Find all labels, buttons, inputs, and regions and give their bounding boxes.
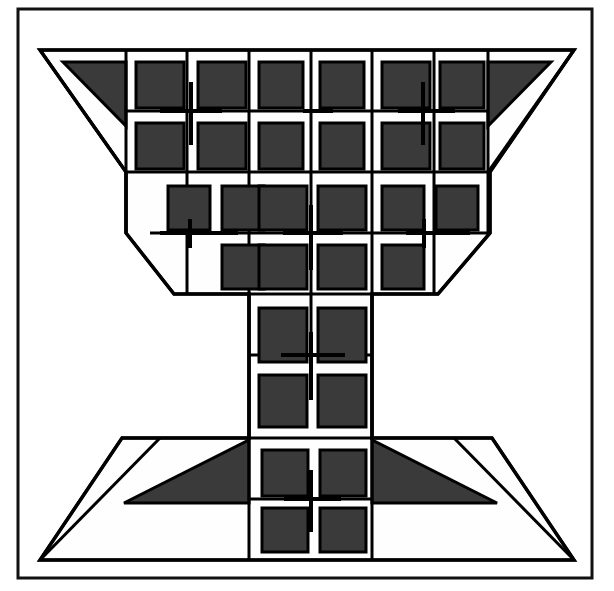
- ornament-figure: [0, 0, 614, 591]
- motif-pad: [382, 186, 424, 230]
- motif-pad: [318, 375, 366, 427]
- motif-pad: [259, 123, 303, 169]
- motif-pad: [259, 186, 307, 230]
- motif-pad: [382, 245, 424, 289]
- motif-pad: [259, 375, 307, 427]
- motif-pad: [318, 245, 366, 289]
- motif-pad: [440, 123, 484, 169]
- motif-pad: [320, 123, 364, 169]
- motif-pad: [318, 186, 366, 230]
- motif-pad: [262, 450, 308, 496]
- motif-pad: [136, 62, 184, 108]
- motif-pad: [440, 62, 484, 108]
- motif-pad: [320, 508, 366, 552]
- figure-canvas: Geometric Fret Ornament Figure Symmetric…: [0, 0, 614, 591]
- motif-pad: [259, 62, 303, 108]
- motif-pad: [320, 62, 364, 108]
- motif-pad: [320, 450, 366, 496]
- motif-pad: [198, 123, 246, 169]
- motif-pad: [198, 62, 246, 108]
- motif-pad: [436, 186, 478, 230]
- motif-pad: [259, 245, 307, 289]
- motif-pad: [262, 508, 308, 552]
- motif-pad: [136, 123, 184, 169]
